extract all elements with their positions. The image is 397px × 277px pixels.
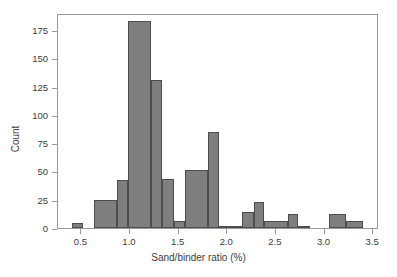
x-tick-mark [178,229,179,234]
x-tick-label: 2.0 [220,236,233,247]
y-axis-label: Count [10,125,21,152]
histogram-bar [219,226,241,228]
y-tick-mark [52,229,57,230]
x-tick-mark [275,229,276,234]
histogram-bar [329,214,346,228]
y-tick-label: 125 [32,83,48,93]
histogram-figure: Count 0255075100125150175 0.51.01.52.02.… [0,0,397,277]
y-tick-label: 100 [32,111,48,121]
histogram-bar [117,180,128,228]
y-tick-label: 50 [37,167,48,177]
plot-frame [57,14,378,229]
y-tick-label: 150 [32,54,48,64]
histogram-bar [151,80,162,228]
histogram-bar [298,226,310,228]
y-tick-label: 75 [37,139,48,149]
x-tick-label: 2.5 [268,236,281,247]
histogram-bar [254,202,265,228]
y-tick-label: 175 [32,26,48,36]
histogram-bar [94,200,117,228]
histogram-bar [185,170,207,228]
y-tick-label: 25 [37,196,48,206]
x-tick-mark [324,229,325,234]
plot-area [58,15,377,228]
x-tick-mark [129,229,130,234]
histogram-bar [208,132,220,228]
x-tick-mark [80,229,81,234]
y-tick-label: 0 [43,224,48,234]
x-axis-label: Sand/binder ratio (%) [0,252,397,263]
histogram-bar [346,221,364,228]
histogram-bar [162,179,174,228]
histogram-bar [288,214,299,228]
histogram-bar [128,21,151,228]
x-tick-label: 3.5 [366,236,379,247]
x-tick-label: 3.0 [317,236,330,247]
x-tick-label: 0.5 [74,236,87,247]
x-tick-label: 1.0 [122,236,135,247]
x-tick-mark [226,229,227,234]
histogram-bar [174,221,186,228]
histogram-bar [72,223,84,228]
x-tick-mark [372,229,373,234]
x-tick-label: 1.5 [171,236,184,247]
histogram-bar [264,221,287,228]
histogram-bar [242,212,254,228]
